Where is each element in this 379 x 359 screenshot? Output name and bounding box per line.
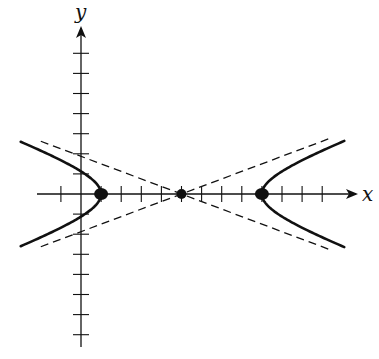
left-vertex-point xyxy=(94,188,108,200)
x-axis-label: x xyxy=(362,182,373,206)
y-axis-label: y xyxy=(74,0,87,24)
right-vertex-point xyxy=(255,188,269,200)
hyperbola-diagram: x y xyxy=(0,0,379,359)
center-point xyxy=(177,189,187,199)
